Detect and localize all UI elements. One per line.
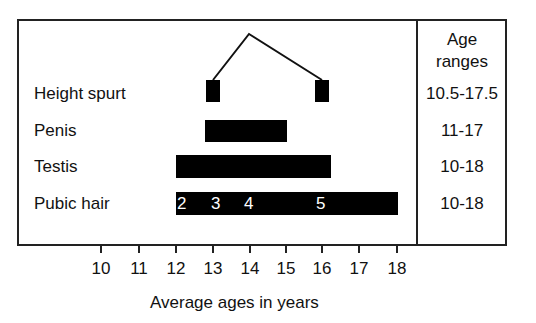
x-tick-15: [285, 246, 287, 253]
x-tick-label-15: 15: [271, 259, 301, 279]
row-label-testis: Testis: [34, 157, 77, 177]
bar-height-spurt-end: [315, 80, 329, 102]
x-tick-16: [321, 246, 323, 253]
age-range-height-spurt: 10.5-17.5: [418, 84, 506, 104]
row-label-height-spurt: Height spurt: [34, 84, 126, 104]
age-ranges-header-line1: Age: [418, 30, 506, 50]
x-tick-label-18: 18: [382, 259, 412, 279]
age-range-penis: 11-17: [418, 121, 506, 141]
x-tick-13: [212, 246, 214, 253]
x-tick-11: [138, 246, 140, 253]
bar-penis: [205, 120, 287, 142]
x-tick-label-14: 14: [235, 259, 265, 279]
bar-height-spurt-start: [206, 80, 220, 102]
bar-testis: [176, 155, 331, 178]
x-axis-label: Average ages in years: [150, 293, 319, 313]
x-tick-label-12: 12: [161, 259, 191, 279]
bar-pubic-hair: [176, 192, 398, 215]
age-ranges-header-line2: ranges: [418, 52, 506, 72]
x-tick-17: [358, 246, 360, 253]
x-tick-12: [175, 246, 177, 253]
x-tick-label-10: 10: [86, 259, 116, 279]
x-tick-label-16: 16: [307, 259, 337, 279]
stage-marker-3: 3: [211, 194, 220, 214]
x-tick-10: [100, 246, 102, 253]
age-range-pubic-hair: 10-18: [418, 194, 506, 214]
stage-marker-4: 4: [244, 194, 253, 214]
x-tick-label-13: 13: [198, 259, 228, 279]
x-tick-14: [249, 246, 251, 253]
x-tick-label-17: 17: [344, 259, 374, 279]
stage-marker-2: 2: [177, 194, 186, 214]
row-label-penis: Penis: [34, 121, 77, 141]
x-tick-18: [396, 246, 398, 253]
row-label-pubic-hair: Pubic hair: [34, 194, 110, 214]
age-range-testis: 10-18: [418, 157, 506, 177]
stage-marker-5: 5: [316, 194, 325, 214]
x-tick-label-11: 11: [124, 259, 154, 279]
